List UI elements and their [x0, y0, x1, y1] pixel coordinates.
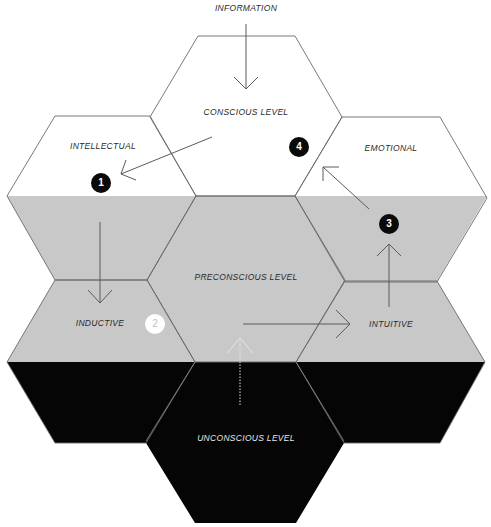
- badge-1: 1: [91, 173, 111, 193]
- label-information: INFORMATION: [215, 3, 277, 13]
- label-unconscious-level: UNCONSCIOUS LEVEL: [197, 433, 295, 443]
- badge-3: 3: [379, 214, 399, 234]
- label-inductive: INDUCTIVE: [76, 318, 125, 328]
- label-intuitive: INTUITIVE: [369, 319, 413, 329]
- badge-4: 4: [289, 137, 309, 157]
- hexagon-diagram: [0, 0, 491, 527]
- label-conscious-level: CONSCIOUS LEVEL: [204, 107, 289, 117]
- label-emotional: EMOTIONAL: [365, 143, 418, 153]
- badge-2: 2: [145, 314, 165, 334]
- arrow-information-down: [234, 24, 258, 89]
- label-preconscious-level: PRECONSCIOUS LEVEL: [194, 272, 297, 282]
- label-intellectual: INTELLECTUAL: [70, 141, 136, 151]
